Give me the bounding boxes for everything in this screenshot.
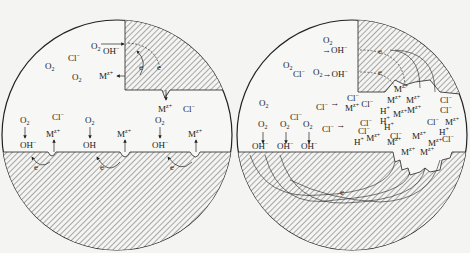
svg-text:OH: OH xyxy=(83,140,96,150)
svg-text:e: e xyxy=(34,162,38,172)
right-panel: e e e O2 →OH− O2 Cl− O2→OH− O2 Cl− Cl− →… xyxy=(235,15,470,253)
svg-text:e: e xyxy=(170,162,174,172)
electron-label: e xyxy=(139,62,143,72)
electron-label: e xyxy=(157,62,161,72)
left-panel: e e O2 OH− O2 Cl− O2 Mz+ Mz+ Cl− Cl− O2 … xyxy=(0,15,235,253)
svg-text:e: e xyxy=(340,187,344,197)
svg-text:e: e xyxy=(378,67,382,77)
corrosion-diagram: e e O2 OH− O2 Cl− O2 Mz+ Mz+ Cl− Cl− O2 … xyxy=(0,0,470,253)
svg-text:e: e xyxy=(378,46,382,56)
svg-text:e: e xyxy=(100,162,104,172)
